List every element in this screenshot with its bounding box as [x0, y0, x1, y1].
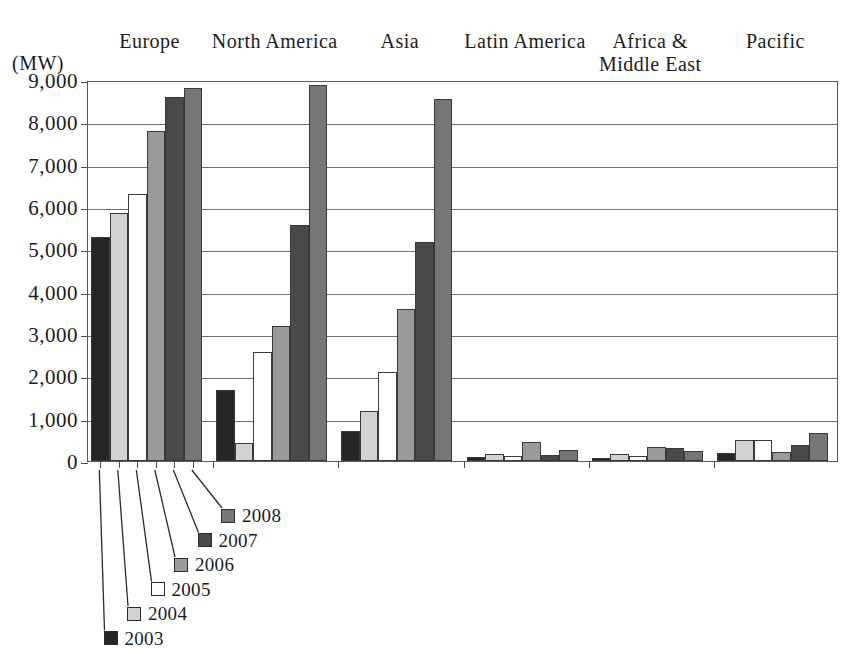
legend-item-2007[interactable]: 2007: [198, 531, 258, 550]
legend-leader-lines: [0, 0, 865, 649]
legend-swatch-icon: [151, 582, 165, 596]
legend-item-2008[interactable]: 2008: [221, 506, 281, 525]
bar-chart: EuropeNorth AmericaAsiaLatin AmericaAfri…: [0, 0, 865, 649]
leader-line: [99, 470, 104, 631]
legend-item-2006[interactable]: 2006: [174, 555, 234, 574]
leader-line: [118, 470, 128, 606]
legend-label: 2008: [242, 506, 281, 525]
legend-label: 2004: [148, 604, 187, 623]
legend-item-2004[interactable]: 2004: [127, 604, 187, 623]
legend-item-2003[interactable]: 2003: [104, 629, 164, 648]
legend-label: 2005: [172, 580, 211, 599]
leader-line: [136, 470, 151, 582]
legend-item-2005[interactable]: 2005: [151, 580, 211, 599]
legend-label: 2006: [195, 555, 234, 574]
legend-label: 2003: [125, 629, 164, 648]
leader-line: [155, 470, 175, 557]
legend-swatch-icon: [174, 558, 188, 572]
legend-swatch-icon: [127, 607, 141, 621]
leader-line: [192, 470, 222, 508]
legend-swatch-icon: [198, 533, 212, 547]
legend-swatch-icon: [221, 509, 235, 523]
legend-swatch-icon: [104, 631, 118, 645]
leader-line: [173, 470, 198, 533]
legend-label: 2007: [219, 531, 258, 550]
